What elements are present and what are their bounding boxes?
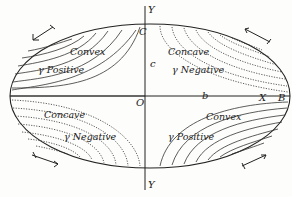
label-b: b (202, 90, 208, 101)
top-right-curvature: Concave (168, 46, 209, 57)
diagram-canvas: Y C c O b X B Y Convex γ Positive Concav… (0, 0, 292, 197)
bottom-right-gamma: γ Positive (168, 131, 215, 142)
top-right-gamma: γ Negative (172, 64, 225, 75)
arrow-top-left-icon (33, 25, 55, 40)
ellipse-curvature-diagram: Y C c O b X B Y Convex γ Positive Concav… (0, 0, 292, 197)
label-y-top: Y (148, 4, 156, 15)
top-right-contours (160, 26, 288, 92)
arrow-top-right-icon (245, 28, 271, 44)
bottom-left-curvature: Concave (44, 109, 85, 120)
bottom-left-gamma: γ Negative (64, 131, 117, 142)
label-C: C (139, 26, 147, 37)
label-x: X (258, 92, 267, 103)
top-left-gamma: γ Positive (38, 64, 85, 75)
top-left-contours (10, 27, 145, 96)
label-c: c (150, 58, 156, 69)
top-left-curvature: Convex (70, 46, 106, 57)
label-y-bottom: Y (148, 179, 156, 190)
arrow-bottom-left-icon (32, 152, 58, 167)
label-B: B (277, 92, 285, 103)
bottom-right-curvature: Convex (206, 111, 242, 122)
label-origin: O (136, 97, 144, 108)
arrow-bottom-right-icon (242, 155, 266, 169)
